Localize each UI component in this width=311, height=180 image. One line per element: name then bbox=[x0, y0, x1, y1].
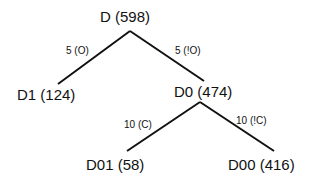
edge-label-d0-d00: 10 (!C) bbox=[236, 116, 267, 126]
node-d1: D1 (124) bbox=[17, 87, 75, 102]
edge-label-d-d0: 5 (!O) bbox=[175, 46, 201, 56]
node-d01: D01 (58) bbox=[86, 157, 144, 172]
node-d: D (598) bbox=[100, 9, 150, 24]
node-d0: D0 (474) bbox=[174, 84, 232, 99]
edge-label-d0-d01: 10 (C) bbox=[124, 120, 152, 130]
edge-label-d-d1: 5 (O) bbox=[66, 46, 89, 56]
edge-d-d0 bbox=[130, 31, 204, 81]
node-d00: D00 (416) bbox=[228, 157, 295, 172]
edge-d-d1 bbox=[58, 31, 130, 84]
edge-d0-d00 bbox=[200, 102, 274, 151]
